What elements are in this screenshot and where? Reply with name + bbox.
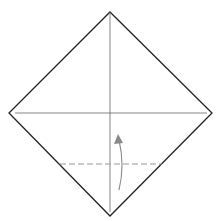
arrowhead-icon — [114, 134, 123, 144]
origami-diagram — [0, 0, 217, 221]
paper-square-outline — [9, 12, 212, 216]
fold-arrow — [119, 140, 122, 190]
